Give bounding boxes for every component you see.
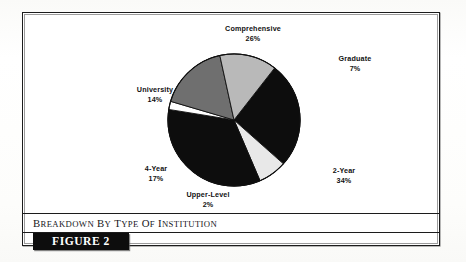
figure-tag-label: FIGURE 2 bbox=[52, 235, 110, 248]
pie-label-graduate-name: Graduate bbox=[339, 54, 372, 63]
pie-label-two-year-pct: 34% bbox=[309, 176, 379, 186]
caption-word-lead: O bbox=[142, 217, 150, 229]
caption-word-rest: Y bbox=[105, 219, 112, 229]
pie-label-two-year: 2-Year 34% bbox=[309, 166, 379, 186]
pie-label-four-year: 4-Year 17% bbox=[121, 164, 191, 184]
pie-label-comprehensive-pct: 26% bbox=[198, 34, 308, 44]
pie-label-university: University 14% bbox=[111, 85, 199, 105]
caption-word-rest: REAKDOWN bbox=[41, 219, 94, 229]
pie-label-comprehensive: Comprehensive 26% bbox=[198, 24, 308, 44]
caption-word-lead: B bbox=[97, 217, 105, 229]
pie-label-comprehensive-name: Comprehensive bbox=[225, 24, 281, 33]
caption-word-rest: NSTITUTION bbox=[162, 219, 217, 229]
figure-page: Comprehensive 26% Graduate 7% 2-Year 34%… bbox=[0, 0, 466, 262]
caption-word-rest: F bbox=[150, 219, 155, 229]
caption-word-lead: B bbox=[33, 217, 41, 229]
pie-label-graduate: Graduate 7% bbox=[315, 54, 395, 74]
caption-word-rest: YPE bbox=[121, 219, 138, 229]
pie-label-graduate-pct: 7% bbox=[315, 64, 395, 74]
figure-caption: BREAKDOWN BY TYPE OF INSTITUTION bbox=[33, 217, 217, 229]
pie-label-four-year-name: 4-Year bbox=[145, 164, 167, 173]
pie-label-university-pct: 14% bbox=[111, 95, 199, 105]
figure-tag-box: FIGURE 2 bbox=[33, 233, 129, 250]
pie-label-upper-level-pct: 2% bbox=[158, 200, 258, 210]
pie-label-four-year-pct: 17% bbox=[121, 174, 191, 184]
pie-label-upper-level: Upper-Level 2% bbox=[158, 190, 258, 210]
pie-label-university-name: University bbox=[137, 85, 173, 94]
pie-label-two-year-name: 2-Year bbox=[333, 166, 355, 175]
pie-chart-area: Comprehensive 26% Graduate 7% 2-Year 34%… bbox=[22, 12, 440, 214]
pie-label-upper-level-name: Upper-Level bbox=[186, 190, 229, 199]
